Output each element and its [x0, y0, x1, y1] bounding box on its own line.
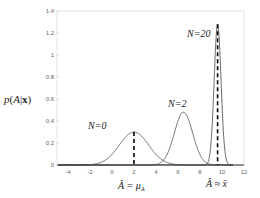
- y-tick-label: 1: [51, 52, 55, 58]
- curve-n-20: [58, 24, 233, 165]
- y-tick-label: 0.2: [46, 140, 55, 146]
- x-tick-label: -2: [87, 169, 93, 175]
- x-tick-label: 8: [198, 169, 202, 175]
- marker-label-mu: Â = μA: [117, 180, 145, 192]
- x-tick-label: 6: [176, 169, 180, 175]
- curves: [58, 24, 233, 165]
- curve-n-2: [58, 112, 233, 165]
- label-n2: N=2: [167, 98, 186, 109]
- y-tick-label: 0.8: [46, 74, 55, 80]
- marker-lines: [134, 24, 218, 165]
- y-tick-label: 0.4: [46, 118, 55, 124]
- y-tick-label: 0: [51, 162, 55, 168]
- x-tick-label: 4: [154, 169, 158, 175]
- x-tick-label: 12: [241, 169, 248, 175]
- chart: 00.20.40.60.811.21.4-4-2024681012 p(A|x)…: [0, 0, 260, 198]
- x-tick-label: -4: [65, 169, 71, 175]
- y-axis-label: p(A|x): [3, 93, 32, 106]
- x-tick-label: 2: [132, 169, 136, 175]
- label-n20: N=20: [186, 28, 210, 39]
- label-n0: N=0: [87, 120, 106, 131]
- y-tick-label: 1.2: [46, 30, 55, 36]
- x-tick-label: 10: [219, 169, 226, 175]
- marker-label-xbar: Â ≈ x̄: [205, 178, 228, 189]
- curve-n-0: [58, 132, 233, 165]
- y-tick-label: 1.4: [46, 8, 55, 14]
- y-tick-label: 0.6: [46, 96, 55, 102]
- x-tick-label: 0: [110, 169, 114, 175]
